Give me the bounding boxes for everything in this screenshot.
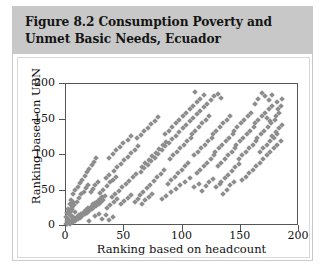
y-axis-tick — [59, 83, 65, 84]
scatter-point — [191, 185, 197, 191]
x-axis-tick-label: 100 — [164, 229, 200, 242]
scatter-point — [270, 92, 276, 98]
scatter-point — [164, 193, 170, 199]
y-axis-title: Ranking based on UBN — [29, 61, 43, 211]
scatter-point — [129, 133, 135, 139]
scatter-point — [187, 175, 193, 181]
scatter-point — [136, 143, 142, 149]
scatter-point — [129, 192, 135, 198]
figure-title-line-2: Unmet Basic Needs, Ecuador — [25, 31, 295, 48]
scatter-point — [270, 103, 276, 109]
scatter-point — [267, 149, 273, 155]
y-axis-tick — [59, 190, 65, 191]
x-axis-tick-label: 0 — [47, 229, 83, 242]
x-axis-tick-label: 50 — [105, 229, 141, 242]
scatter-point — [173, 186, 179, 192]
scatter-point — [186, 160, 192, 166]
scatter-point — [87, 218, 93, 224]
x-axis-tick-label: 150 — [222, 229, 258, 242]
scatter-point — [177, 182, 183, 188]
scatter-point — [256, 96, 262, 102]
x-axis-tick-label: 200 — [280, 229, 316, 242]
scatter-point — [266, 97, 272, 103]
scatter-point — [106, 172, 112, 178]
figure-header-band: Figure 8.2 Consumption Poverty and Unmet… — [13, 7, 312, 54]
figure-title: Figure 8.2 Consumption Poverty and Unmet… — [25, 14, 295, 47]
scatter-point — [169, 124, 175, 130]
scatter-point — [150, 191, 156, 197]
scatter-point — [182, 179, 188, 185]
chart-body: 050100150200050100150200 Ranking based o… — [17, 57, 310, 258]
figure-title-line-1: Figure 8.2 Consumption Poverty and — [25, 14, 295, 31]
x-axis-title: Ranking based on headcount — [65, 242, 298, 256]
scatter-point — [113, 174, 119, 180]
figure-container: Figure 8.2 Consumption Poverty and Unmet… — [12, 6, 313, 261]
scatter-point — [279, 96, 285, 102]
scatter-point — [85, 182, 91, 188]
scatter-point — [168, 189, 174, 195]
y-axis-tick — [59, 119, 65, 120]
scatter-point — [249, 110, 255, 116]
scatter-point — [193, 89, 199, 95]
scatter-point — [196, 181, 202, 187]
y-axis-tick — [59, 154, 65, 155]
scatter-point — [218, 95, 224, 101]
scatter-point — [200, 188, 206, 194]
scatter-point — [94, 155, 100, 161]
scatter-plot: 050100150200050100150200 Ranking based o… — [18, 58, 309, 257]
scatter-points-layer — [65, 83, 298, 225]
